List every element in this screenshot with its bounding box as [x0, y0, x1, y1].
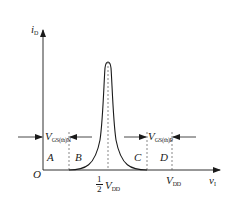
origin-label: O [33, 169, 41, 180]
x-axis-label: vI [209, 175, 216, 187]
region-label-a: A [47, 152, 54, 163]
half-vdd-label: VDD [105, 180, 120, 192]
y-axis-label: iD [31, 24, 38, 36]
region-label-c: C [134, 152, 141, 163]
threshold-label-nmos: VGS(th)N [45, 131, 71, 143]
half-fraction: 1 2 [96, 175, 103, 194]
region-label-d: D [160, 152, 168, 163]
threshold-label-pmos: VGS(th)P [148, 131, 173, 143]
vdd-label: VDD [166, 175, 181, 187]
region-label-b: B [75, 152, 82, 163]
